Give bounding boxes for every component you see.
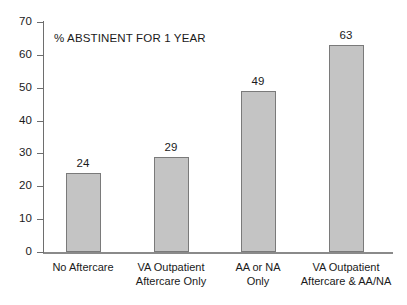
category-label-line: Aftercare & AA/NA: [292, 275, 400, 289]
chart-title: % ABSTINENT FOR 1 YEAR: [54, 32, 206, 45]
y-tick-mark: [37, 186, 44, 187]
y-tick-mark: [37, 22, 44, 23]
bar-value-label: 29: [141, 141, 201, 153]
bar-aa-or-na-only: [241, 91, 276, 252]
bar-va-outpatient-aftercare-only: [154, 157, 189, 252]
y-tick-mark: [37, 219, 44, 220]
bar-chart-figure: 70 60 50 40 30 20 10 0 % ABSTINENT FOR 1…: [0, 0, 407, 305]
bar-value-label: 63: [316, 29, 376, 41]
category-label-line: VA Outpatient: [292, 261, 400, 275]
y-tick-label-30: 30: [2, 147, 32, 159]
x-axis-line: [43, 252, 393, 254]
y-tick-mark: [37, 153, 44, 154]
y-tick-label-0: 0: [2, 246, 32, 258]
y-tick-mark: [37, 252, 44, 253]
bar-value-label: 49: [228, 75, 288, 87]
category-label-va-outpatient-aftercare-and-aa-na: VA Outpatient Aftercare & AA/NA: [292, 261, 400, 288]
y-tick-label-40: 40: [2, 115, 32, 127]
y-tick-label-70: 70: [2, 16, 32, 28]
bar-value-label: 24: [53, 157, 113, 169]
bar-no-aftercare: [66, 173, 101, 252]
y-tick-label-60: 60: [2, 49, 32, 61]
y-tick-mark: [37, 55, 44, 56]
y-tick-mark: [37, 121, 44, 122]
y-tick-label-10: 10: [2, 213, 32, 225]
bar-va-outpatient-aftercare-and-aa-na: [329, 45, 364, 252]
y-tick-label-20: 20: [2, 180, 32, 192]
y-tick-mark: [37, 88, 44, 89]
y-tick-label-50: 50: [2, 82, 32, 94]
